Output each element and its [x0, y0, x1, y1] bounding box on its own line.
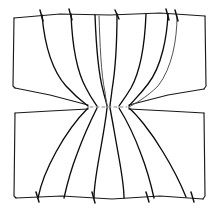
upper-streamline-2: [71, 14, 97, 106]
lower-streamline-6: [129, 108, 186, 197]
lower-right-wedge-face: [129, 109, 204, 113]
streamline-drawing: [0, 0, 217, 212]
lower-streamline-4: [110, 108, 124, 198]
bottom-tick-group: [36, 192, 194, 203]
upper-streamline-6: [129, 14, 168, 106]
upper-streamline-group: [42, 14, 177, 107]
upper-block-left-edge: [13, 18, 15, 88]
lower-left-wedge-face: [15, 109, 88, 113]
bottom-tick-4: [191, 192, 194, 202]
upper-block-right-edge: [204, 16, 206, 89]
upper-streamline-4: [110, 14, 117, 106]
figure-canvas: Hand-drawn streamline sketch through a c…: [0, 0, 217, 212]
lower-streamline-2: [64, 108, 97, 198]
lower-streamline-1: [38, 108, 88, 198]
lower-streamline-3: [94, 108, 107, 198]
upper-streamline-7: [129, 16, 177, 107]
lower-block-outline: [14, 109, 205, 199]
upper-streamline-3b: [99, 16, 107, 107]
lower-streamline-5: [119, 108, 154, 198]
lower-block-right-edge: [203, 113, 205, 199]
lower-block-bottom-edge: [16, 196, 203, 199]
lower-block-left-edge: [14, 113, 16, 198]
upper-streamline-1: [42, 15, 88, 106]
lower-streamline-group: [38, 108, 186, 198]
upper-right-wedge-face: [129, 89, 204, 105]
